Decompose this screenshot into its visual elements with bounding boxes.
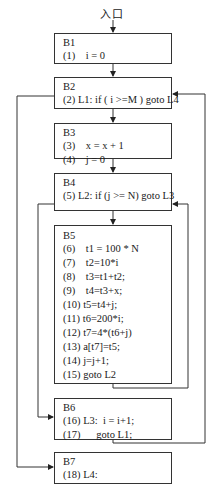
block-name: B5 <box>63 229 171 242</box>
instruction: (7) t2=10*i <box>63 256 171 270</box>
block-name: B1 <box>63 36 171 49</box>
instruction: (4) j = 0 <box>63 153 171 167</box>
instruction: (5) L2: if (j >= N) goto L3 <box>63 189 171 203</box>
instruction: (6) t1 = 100 * N <box>63 242 171 256</box>
block-name: B3 <box>63 126 171 139</box>
entry-label: 入口 <box>100 5 124 21</box>
instruction: (18) L4: <box>63 468 171 482</box>
instruction: (3) x = x + 1 <box>63 139 171 153</box>
block-name: B2 <box>63 80 171 93</box>
edge-b4-b6 <box>38 204 54 417</box>
block-b7: B7 (18) L4: <box>54 452 172 484</box>
block-name: B7 <box>63 455 171 468</box>
instruction: (10) t5=t4+j; <box>63 298 171 312</box>
instruction: (11) t6=200*i; <box>63 312 171 326</box>
instruction: (9) t4=t3+x; <box>63 284 171 298</box>
instruction: (14) j=j+1; <box>63 354 171 368</box>
instruction: (15) goto L2 <box>63 368 171 382</box>
instruction: (1) i = 0 <box>63 49 171 63</box>
instruction: (16) L3: i = i+1; <box>63 414 171 428</box>
instruction: (17) goto L1; <box>63 428 171 442</box>
control-flow-graph: 入口 B1 (1) i = 0 B2 (2) L1: if ( i >=M ) … <box>0 0 218 495</box>
block-name: B4 <box>63 176 171 189</box>
block-b5: B5 (6) t1 = 100 * N (7) t2=10*i (8) t3=t… <box>54 225 172 384</box>
instruction: (2) L1: if ( i >=M ) goto L4 <box>63 93 171 107</box>
block-b6: B6 (16) L3: i = i+1; (17) goto L1; <box>54 398 172 440</box>
block-b4: B4 (5) L2: if (j >= N) goto L3 <box>54 173 172 211</box>
instruction: (8) t3=t1+t2; <box>63 270 171 284</box>
edge-b2-b7 <box>17 96 54 467</box>
block-name: B6 <box>63 401 171 414</box>
block-b3: B3 (3) x = x + 1 (4) j = 0 <box>54 123 172 159</box>
instruction: (13) a[t7]=t5; <box>63 340 171 354</box>
block-b1: B1 (1) i = 0 <box>54 33 172 64</box>
block-b2: B2 (2) L1: if ( i >=M ) goto L4 <box>54 77 172 109</box>
instruction: (12) t7=4*(t6+j) <box>63 326 171 340</box>
